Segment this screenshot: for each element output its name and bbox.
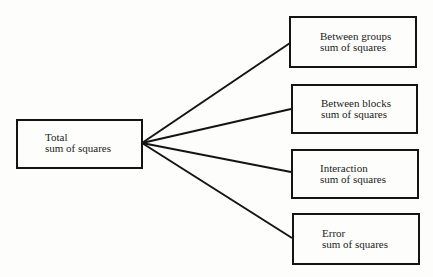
total-label-line2: sum of squares <box>45 143 111 154</box>
interaction-label-line2: sum of squares <box>320 174 386 185</box>
between-blocks-label-line2: sum of squares <box>321 109 391 120</box>
total-label: Total sum of squares <box>45 132 111 154</box>
edge-total-to-between-blocks <box>142 109 291 143</box>
between-groups-box: Between groups sum of squares <box>289 16 417 68</box>
total-sum-of-squares-box: Total sum of squares <box>16 119 143 169</box>
error-label: Error sum of squares <box>322 228 388 250</box>
error-box: Error sum of squares <box>292 213 420 265</box>
error-label-line2: sum of squares <box>322 239 388 250</box>
interaction-box: Interaction sum of squares <box>291 149 419 199</box>
between-groups-label: Between groups sum of squares <box>320 31 391 53</box>
interaction-label: Interaction sum of squares <box>320 163 386 185</box>
edge-total-to-between-groups <box>142 43 290 143</box>
between-blocks-box: Between blocks sum of squares <box>291 84 418 134</box>
between-blocks-label: Between blocks sum of squares <box>321 98 391 120</box>
between-groups-label-line2: sum of squares <box>320 42 391 53</box>
